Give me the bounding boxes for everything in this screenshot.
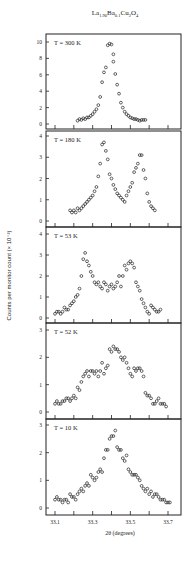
data-point	[155, 400, 158, 403]
data-point	[157, 397, 160, 400]
panel-5: 0123T = 10 K33.133.333.533.7	[39, 419, 181, 525]
y-tick-label: 10	[37, 39, 43, 45]
data-point	[123, 200, 126, 203]
y-tick-label: 3	[39, 327, 42, 333]
data-point	[89, 270, 92, 273]
data-point	[88, 484, 91, 487]
data-point	[153, 209, 156, 212]
data-point	[93, 190, 96, 193]
data-point	[80, 487, 83, 490]
y-tick-label: 0	[39, 505, 42, 511]
data-point	[97, 175, 100, 178]
data-point	[80, 381, 83, 384]
panel-3: 01234T = 53 K	[39, 227, 181, 323]
data-point	[101, 471, 104, 474]
data-point	[112, 60, 115, 63]
y-tick-label: 3	[39, 154, 42, 160]
data-point	[114, 429, 117, 432]
data-point	[144, 306, 147, 309]
data-point	[118, 350, 121, 353]
data-point	[110, 283, 113, 286]
data-point	[72, 496, 75, 499]
data-point	[131, 181, 134, 184]
data-point	[67, 397, 70, 400]
data-point	[157, 496, 160, 499]
data-point	[118, 275, 121, 278]
data-point	[140, 484, 143, 487]
data-point	[104, 367, 107, 370]
temperature-label: T = 53 K	[54, 232, 78, 239]
data-point	[103, 372, 106, 375]
data-point	[106, 289, 109, 292]
data-point	[103, 141, 106, 144]
y-tick-label: 1	[39, 477, 42, 483]
data-point	[97, 375, 100, 378]
data-point	[95, 476, 98, 479]
data-point	[78, 287, 81, 290]
data-point	[76, 493, 79, 496]
y-tick-label: 0	[39, 315, 42, 321]
panel-frame	[46, 227, 181, 323]
data-point	[80, 275, 83, 278]
data-point	[127, 468, 130, 471]
data-point	[144, 119, 147, 122]
data-point	[76, 294, 79, 297]
y-tick-label: 2	[39, 354, 42, 360]
data-point	[101, 361, 104, 364]
data-point	[114, 285, 117, 288]
data-point	[97, 471, 100, 474]
data-point	[65, 498, 68, 501]
data-point	[112, 183, 115, 186]
data-point	[104, 283, 107, 286]
data-point	[82, 258, 85, 261]
data-point	[91, 275, 94, 278]
data-point	[69, 400, 72, 403]
x-tick-label: 33.7	[163, 519, 173, 525]
data-point	[133, 171, 136, 174]
data-point	[153, 402, 156, 405]
data-point	[121, 457, 124, 460]
data-point	[112, 345, 115, 348]
data-point	[135, 281, 138, 284]
data-point	[168, 501, 171, 504]
data-point	[103, 457, 106, 460]
data-point	[120, 449, 123, 452]
data-point	[140, 370, 143, 373]
data-point	[114, 188, 117, 191]
data-point	[76, 386, 79, 389]
data-point	[59, 402, 62, 405]
data-point	[144, 177, 147, 180]
data-point	[150, 397, 153, 400]
data-point	[55, 400, 58, 403]
data-point	[106, 158, 109, 161]
data-point	[61, 310, 64, 313]
data-point	[140, 154, 143, 157]
data-point	[72, 300, 75, 303]
temperature-label: T = 300 K	[54, 39, 81, 46]
x-tick-label: 33.3	[88, 519, 98, 525]
y-tick-label: 1	[39, 382, 42, 388]
data-point	[86, 482, 89, 485]
data-point	[125, 361, 128, 364]
data-point	[159, 308, 162, 311]
data-point	[129, 471, 132, 474]
data-point	[163, 498, 166, 501]
data-point	[84, 484, 87, 487]
x-axis-label: 2θ (degrees)	[60, 530, 180, 536]
data-point	[116, 446, 119, 449]
data-point	[97, 104, 100, 107]
data-point	[112, 435, 115, 438]
data-point	[148, 493, 151, 496]
data-point	[86, 370, 89, 373]
data-point	[125, 194, 128, 197]
data-point	[95, 186, 98, 189]
y-tick-label: 3	[39, 422, 42, 428]
data-point	[61, 501, 64, 504]
y-tick-label: 0	[39, 409, 42, 415]
data-point	[118, 92, 121, 95]
data-point	[91, 194, 94, 197]
data-point	[146, 487, 149, 490]
data-point	[146, 192, 149, 195]
data-point	[127, 190, 130, 193]
data-point	[125, 454, 128, 457]
